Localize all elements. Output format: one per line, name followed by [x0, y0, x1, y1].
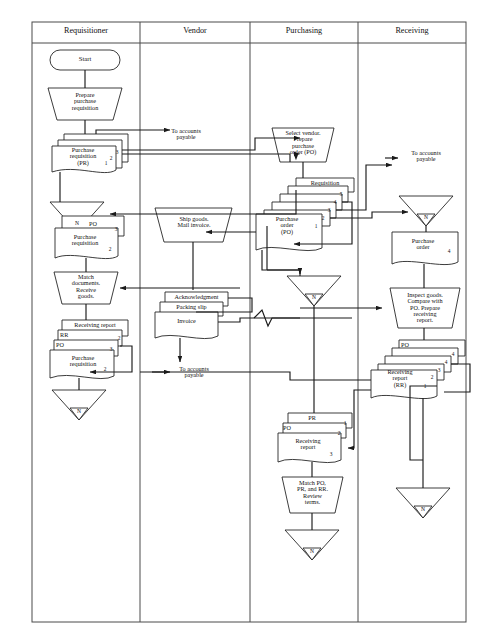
- rr-doc-pur: [278, 433, 341, 463]
- rr-copy-1: [371, 370, 437, 399]
- inspect-goods-process: [390, 288, 460, 328]
- start-terminator: [50, 50, 120, 70]
- prepare-pr-process: [48, 88, 122, 120]
- shapes: [48, 50, 465, 560]
- file-triangle-pur-2-inner: [303, 548, 321, 560]
- po-copy-1: [256, 214, 322, 251]
- pr-copy-1: [52, 146, 116, 173]
- match-review-process: [282, 477, 343, 513]
- ap-arrows: [152, 158, 398, 372]
- file-triangle-req-2-inner: [70, 408, 88, 420]
- pr-doc-req-2: [50, 350, 114, 379]
- po-doc-rec: [392, 232, 458, 265]
- file-triangle-rec-2-inner: [414, 506, 432, 518]
- file-triangle-pur-1-inner: [305, 294, 323, 306]
- file-triangle-rec-1-inner: [417, 214, 435, 226]
- ship-goods-process: [155, 208, 232, 242]
- match-docs-process: [54, 272, 118, 304]
- invoice-doc: [155, 312, 218, 339]
- flowchart-canvas: Requisitioner Vendor Purchasing Receivin…: [0, 0, 484, 638]
- select-vendor-process: [272, 128, 334, 162]
- pr-doc-req: [55, 228, 118, 259]
- flowchart-graphics: [0, 0, 484, 638]
